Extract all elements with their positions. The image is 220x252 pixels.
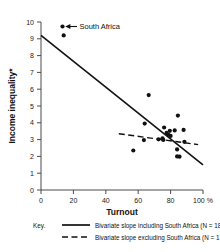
x-tick-label-100: 100 % [193,197,213,204]
data-point [176,114,180,118]
y-tick-label-0: 0 [30,187,34,194]
south-africa-callout-label: South Africa [80,22,121,31]
y-axis-ticks: 10 9 8 7 6 5 4 3 2 1 0 [26,19,41,194]
y-tick-label-8: 8 [30,52,34,59]
x-tick-label-20: 20 [70,197,78,204]
x-tick-label-60: 60 [134,197,142,204]
y-tick-label-2: 2 [30,153,34,160]
data-point [162,125,166,129]
regression-line-including-south-africa [41,35,203,164]
x-tick-label-80: 80 [167,197,175,204]
y-tick-label-1: 1 [30,170,34,177]
data-point [143,122,147,126]
x-tick-label-0: 0 [39,197,43,204]
data-point [142,138,146,142]
data-point [62,33,66,37]
income-inequality-turnout-chart: Income inequality* 10 9 8 7 6 5 4 3 2 [0,0,220,252]
y-tick-label-4: 4 [30,119,34,126]
chart-svg: Income inequality* 10 9 8 7 6 5 4 3 2 [0,0,220,252]
south-africa-callout: South Africa [60,22,120,31]
data-point [147,93,151,97]
data-point [161,138,165,142]
legend-label-including: Bivariate slope including South Africa (… [95,222,220,230]
data-point [131,148,135,152]
data-point [175,147,179,151]
south-africa-callout-marker [60,24,64,28]
y-tick-label-10: 10 [26,19,34,26]
south-africa-callout-arrowhead [65,24,70,29]
data-point [156,137,160,141]
data-point [182,128,186,132]
data-point [169,134,173,138]
chart-legend: Key. Bivariate slope including South Afr… [33,222,220,242]
x-tick-label-40: 40 [102,197,110,204]
y-tick-label-9: 9 [30,35,34,42]
y-tick-label-5: 5 [30,103,34,110]
legend-key-label: Key. [33,222,45,230]
x-axis-ticks: 0 20 40 60 80 100 % [39,190,213,204]
legend-label-excluding: Bivariate slope excluding South Africa (… [95,234,220,242]
data-point [173,128,177,132]
y-tick-label-3: 3 [30,136,34,143]
y-axis-title: Income inequality* [7,68,17,144]
data-point [182,140,186,144]
data-point [177,155,181,159]
y-tick-label-7: 7 [30,69,34,76]
y-tick-label-6: 6 [30,86,34,93]
x-axis-title: Turnout [106,207,138,217]
